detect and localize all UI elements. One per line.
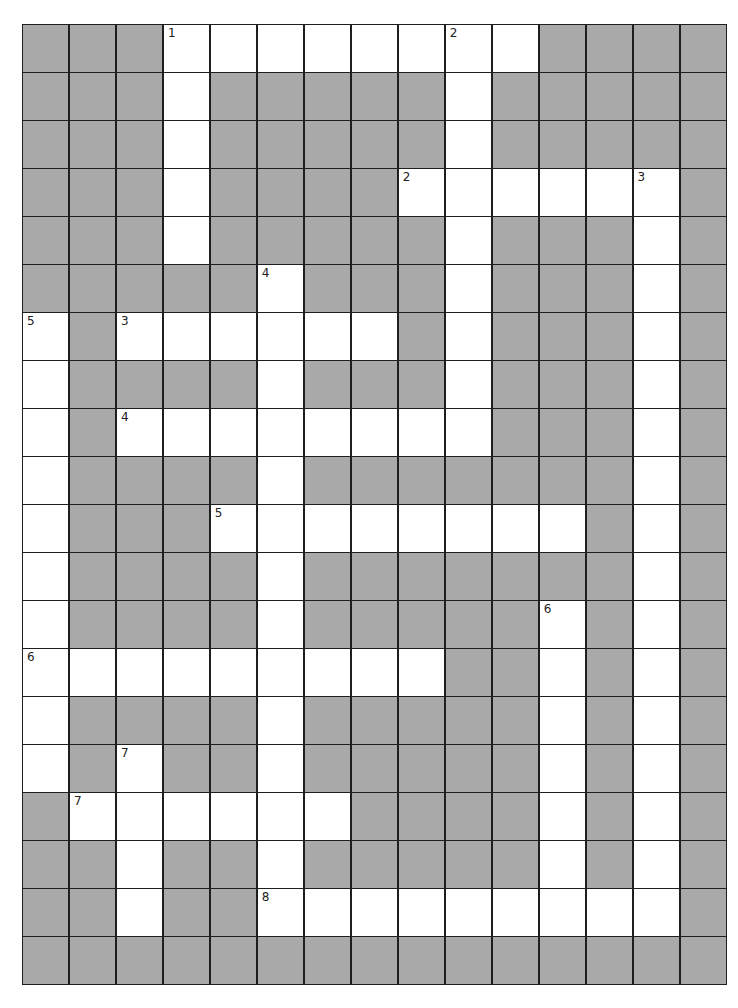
crossword-cell-open[interactable] bbox=[117, 889, 162, 936]
crossword-cell-open[interactable] bbox=[70, 649, 115, 696]
crossword-cell-open[interactable] bbox=[352, 409, 397, 456]
crossword-cell-open[interactable] bbox=[634, 361, 679, 408]
crossword-cell-open[interactable] bbox=[634, 649, 679, 696]
crossword-cell-open[interactable] bbox=[211, 409, 256, 456]
crossword-cell-open[interactable] bbox=[211, 793, 256, 840]
crossword-cell-open[interactable]: 6 bbox=[23, 649, 68, 696]
crossword-cell-open[interactable] bbox=[211, 313, 256, 360]
crossword-cell-open[interactable] bbox=[634, 313, 679, 360]
crossword-cell-open[interactable] bbox=[493, 505, 538, 552]
crossword-cell-open[interactable] bbox=[352, 889, 397, 936]
crossword-cell-open[interactable] bbox=[305, 505, 350, 552]
crossword-cell-open[interactable] bbox=[634, 457, 679, 504]
crossword-cell-open[interactable] bbox=[446, 313, 491, 360]
crossword-cell-open[interactable]: 3 bbox=[634, 169, 679, 216]
crossword-cell-open[interactable] bbox=[540, 649, 585, 696]
crossword-cell-open[interactable] bbox=[305, 649, 350, 696]
crossword-cell-open[interactable] bbox=[587, 169, 632, 216]
crossword-cell-open[interactable] bbox=[23, 601, 68, 648]
crossword-cell-open[interactable]: 2 bbox=[446, 25, 491, 72]
crossword-cell-open[interactable] bbox=[258, 841, 303, 888]
crossword-cell-open[interactable] bbox=[399, 649, 444, 696]
crossword-cell-open[interactable] bbox=[164, 409, 209, 456]
crossword-cell-open[interactable] bbox=[352, 649, 397, 696]
crossword-cell-open[interactable] bbox=[446, 217, 491, 264]
crossword-cell-open[interactable] bbox=[164, 73, 209, 120]
crossword-cell-open[interactable] bbox=[258, 553, 303, 600]
crossword-cell-open[interactable] bbox=[634, 553, 679, 600]
crossword-cell-open[interactable] bbox=[164, 649, 209, 696]
crossword-cell-open[interactable]: 5 bbox=[23, 313, 68, 360]
crossword-cell-open[interactable] bbox=[634, 697, 679, 744]
crossword-cell-open[interactable] bbox=[258, 649, 303, 696]
crossword-cell-open[interactable] bbox=[540, 745, 585, 792]
crossword-cell-open[interactable] bbox=[540, 697, 585, 744]
crossword-cell-open[interactable] bbox=[446, 121, 491, 168]
crossword-cell-open[interactable] bbox=[446, 409, 491, 456]
crossword-cell-open[interactable] bbox=[540, 169, 585, 216]
crossword-cell-open[interactable] bbox=[493, 169, 538, 216]
crossword-cell-open[interactable] bbox=[446, 169, 491, 216]
crossword-cell-open[interactable] bbox=[164, 313, 209, 360]
crossword-cell-open[interactable] bbox=[634, 505, 679, 552]
crossword-cell-open[interactable] bbox=[258, 409, 303, 456]
crossword-cell-open[interactable] bbox=[399, 505, 444, 552]
crossword-cell-open[interactable] bbox=[352, 505, 397, 552]
crossword-cell-open[interactable] bbox=[587, 889, 632, 936]
crossword-cell-open[interactable] bbox=[23, 457, 68, 504]
crossword-cell-open[interactable] bbox=[399, 409, 444, 456]
crossword-cell-open[interactable]: 3 bbox=[117, 313, 162, 360]
crossword-cell-open[interactable] bbox=[258, 313, 303, 360]
crossword-cell-open[interactable] bbox=[258, 361, 303, 408]
crossword-cell-open[interactable] bbox=[634, 745, 679, 792]
crossword-cell-open[interactable] bbox=[399, 889, 444, 936]
crossword-cell-open[interactable] bbox=[258, 457, 303, 504]
crossword-cell-open[interactable] bbox=[164, 169, 209, 216]
crossword-cell-open[interactable]: 4 bbox=[117, 409, 162, 456]
crossword-cell-open[interactable] bbox=[258, 745, 303, 792]
crossword-cell-open[interactable]: 4 bbox=[258, 265, 303, 312]
crossword-cell-open[interactable] bbox=[305, 25, 350, 72]
crossword-cell-open[interactable] bbox=[634, 601, 679, 648]
crossword-cell-open[interactable] bbox=[23, 697, 68, 744]
crossword-cell-open[interactable] bbox=[23, 553, 68, 600]
crossword-cell-open[interactable] bbox=[117, 793, 162, 840]
crossword-cell-open[interactable] bbox=[258, 25, 303, 72]
crossword-cell-open[interactable] bbox=[23, 745, 68, 792]
crossword-cell-open[interactable]: 2 bbox=[399, 169, 444, 216]
crossword-cell-open[interactable] bbox=[634, 841, 679, 888]
crossword-cell-open[interactable] bbox=[540, 505, 585, 552]
crossword-cell-open[interactable] bbox=[634, 793, 679, 840]
crossword-cell-open[interactable] bbox=[117, 649, 162, 696]
crossword-cell-open[interactable] bbox=[258, 697, 303, 744]
crossword-cell-open[interactable]: 7 bbox=[117, 745, 162, 792]
crossword-cell-open[interactable] bbox=[493, 889, 538, 936]
crossword-cell-open[interactable] bbox=[634, 265, 679, 312]
crossword-cell-open[interactable] bbox=[164, 793, 209, 840]
crossword-cell-open[interactable] bbox=[540, 889, 585, 936]
crossword-cell-open[interactable] bbox=[446, 505, 491, 552]
crossword-cell-open[interactable] bbox=[634, 217, 679, 264]
crossword-cell-open[interactable] bbox=[117, 841, 162, 888]
crossword-cell-open[interactable] bbox=[540, 793, 585, 840]
crossword-cell-open[interactable] bbox=[446, 265, 491, 312]
crossword-cell-open[interactable] bbox=[164, 217, 209, 264]
crossword-cell-open[interactable] bbox=[540, 841, 585, 888]
crossword-cell-open[interactable] bbox=[305, 409, 350, 456]
crossword-cell-open[interactable]: 1 bbox=[164, 25, 209, 72]
crossword-cell-open[interactable] bbox=[305, 313, 350, 360]
crossword-cell-open[interactable] bbox=[258, 505, 303, 552]
crossword-cell-open[interactable]: 5 bbox=[211, 505, 256, 552]
crossword-cell-open[interactable]: 6 bbox=[540, 601, 585, 648]
crossword-cell-open[interactable] bbox=[258, 601, 303, 648]
crossword-cell-open[interactable] bbox=[305, 889, 350, 936]
crossword-cell-open[interactable] bbox=[352, 25, 397, 72]
crossword-cell-open[interactable] bbox=[258, 793, 303, 840]
crossword-cell-open[interactable] bbox=[211, 649, 256, 696]
crossword-cell-open[interactable] bbox=[164, 121, 209, 168]
crossword-cell-open[interactable] bbox=[352, 313, 397, 360]
crossword-cell-open[interactable] bbox=[446, 889, 491, 936]
crossword-cell-open[interactable] bbox=[305, 793, 350, 840]
crossword-cell-open[interactable] bbox=[634, 409, 679, 456]
crossword-cell-open[interactable] bbox=[446, 73, 491, 120]
